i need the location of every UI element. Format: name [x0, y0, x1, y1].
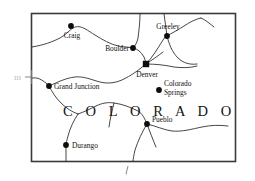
city-label-colorado-springs-line2: Springs	[164, 88, 187, 97]
city-label-craig: Craig	[64, 31, 81, 40]
city-marker-dot	[156, 87, 162, 93]
colorado-map: III	[0, 0, 255, 181]
city-marker-dot	[144, 121, 150, 127]
city-marker-dot	[130, 45, 136, 51]
state-name-label: C O L O R A D O	[63, 103, 236, 119]
city-marker-dot	[68, 23, 74, 29]
city-grand-junction[interactable]: Grand Junction	[46, 82, 100, 91]
city-label-boulder: Boulder	[105, 44, 129, 53]
capital-marker-square	[143, 61, 149, 67]
map-canvas: III	[0, 0, 255, 181]
city-label-grand-junction: Grand Junction	[54, 82, 100, 91]
city-label-denver: Denver	[136, 70, 158, 79]
city-label-durango: Durango	[72, 141, 98, 150]
city-marker-dot	[46, 83, 52, 89]
city-label-greeley: Greeley	[156, 22, 180, 31]
margin-bottom-note: /	[126, 172, 128, 177]
latitude-tick-left	[25, 70, 32, 84]
margin-left-note: III	[14, 74, 22, 82]
city-marker-dot	[63, 142, 69, 148]
city-label-colorado-springs-line1: Colorado	[164, 79, 192, 88]
city-marker-dot	[164, 33, 170, 39]
